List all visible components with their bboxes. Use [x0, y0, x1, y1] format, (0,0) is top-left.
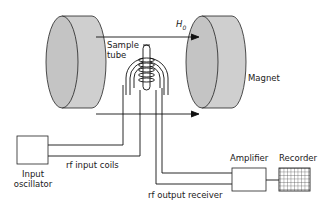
recorder-label: Recorder: [279, 153, 317, 163]
input-oscillator-label-line2: oscillator: [10, 179, 56, 189]
right-magnet: [186, 16, 246, 108]
sample-tube-label: Sample tube: [107, 40, 139, 60]
sample-tube: [143, 45, 150, 90]
input-oscillator-box: [17, 136, 48, 164]
amplifier-box: [232, 168, 266, 191]
recorder-box: [279, 168, 310, 191]
sample-tube-label-line2: tube: [107, 50, 139, 60]
rf-input-coils-label: rf input coils: [66, 160, 119, 170]
input-oscillator-label: Input oscillator: [10, 169, 56, 189]
sample-tube-label-line1: Sample: [107, 40, 139, 50]
input-oscillator-label-line1: Input: [10, 169, 56, 179]
left-magnet: [46, 16, 106, 108]
magnet-label: Magnet: [248, 73, 280, 83]
amplifier-label: Amplifier: [230, 153, 268, 163]
rf-output-receiver-label: rf output receiver: [148, 190, 222, 200]
field-label: H0: [176, 19, 186, 33]
